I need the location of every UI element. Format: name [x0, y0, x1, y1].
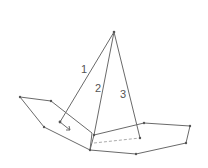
hidden-edge [94, 138, 140, 143]
label-3: 3 [120, 88, 126, 100]
label-1: 1 [81, 63, 87, 75]
diagram-svg: 1 2 3 [0, 0, 208, 168]
arrow-icon [60, 122, 70, 130]
ray-3 [114, 32, 140, 138]
left-flap [20, 97, 92, 150]
ray-1 [60, 32, 114, 122]
label-2: 2 [95, 82, 101, 94]
diagram-canvas: 1 2 3 [0, 0, 208, 168]
